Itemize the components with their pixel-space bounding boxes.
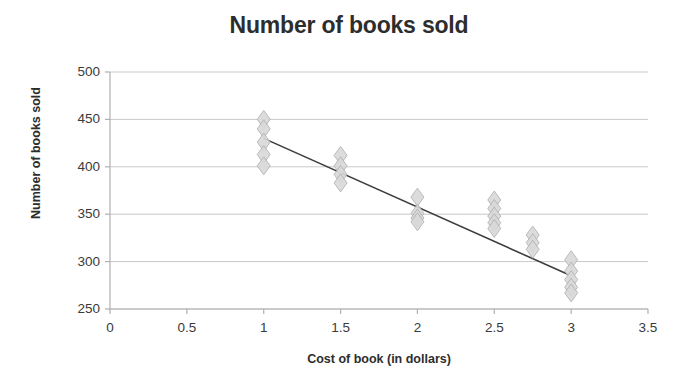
y-tick-label: 300 bbox=[56, 255, 100, 269]
x-tick-label: 2.5 bbox=[470, 321, 518, 335]
x-tick-label: 2 bbox=[393, 321, 441, 335]
y-tick-label: 350 bbox=[56, 207, 100, 221]
y-tick-label: 500 bbox=[56, 65, 100, 79]
y-tick-label: 250 bbox=[56, 302, 100, 316]
scatter-chart-figure: Number of books sold Number of books sol… bbox=[0, 0, 698, 386]
x-tick-label: 1.5 bbox=[317, 321, 365, 335]
y-tick-label: 450 bbox=[56, 112, 100, 126]
x-tick-label: 3 bbox=[547, 321, 595, 335]
x-tick-label: 1 bbox=[240, 321, 288, 335]
y-tick-label: 400 bbox=[56, 160, 100, 174]
data-points bbox=[257, 110, 577, 301]
x-tick-label: 0.5 bbox=[163, 321, 211, 335]
x-tick-label: 0 bbox=[86, 321, 134, 335]
x-tick-label: 3.5 bbox=[624, 321, 672, 335]
data-point-marker bbox=[257, 157, 270, 175]
